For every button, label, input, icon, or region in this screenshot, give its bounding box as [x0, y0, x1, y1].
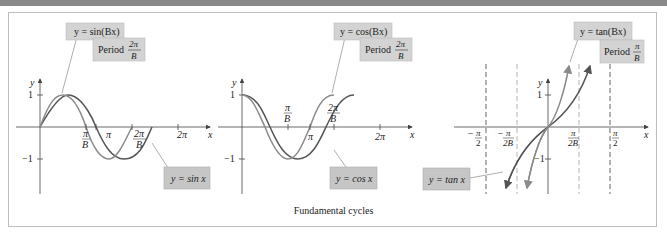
sine-panel: x y 1 −1 π B π 2π B 2π y = sin(Bx) Perio…: [16, 23, 213, 194]
y-axis-label: y: [537, 77, 543, 88]
cos-bx-label: y = cos(Bx): [340, 26, 387, 38]
tan-period-num: π: [635, 41, 640, 51]
cos-period-word: Period: [365, 44, 391, 55]
sin-period-num: 2π: [129, 39, 139, 49]
xtick-pi-over-B-num: π: [285, 102, 291, 113]
cos-x-label: y = cos x: [335, 173, 373, 184]
xtick-pi-over-2B-num: π: [571, 128, 576, 138]
cosine-panel: x y 1 −1 π B π 2π B 2π y = cos(Bx) Perio…: [218, 23, 415, 194]
xtick-pi-over-2-den: 2: [613, 138, 618, 148]
xtick-2pi: 2π: [177, 129, 188, 140]
sin-x-label: y = sin x: [170, 173, 206, 184]
xtick-pi-over-B-den: B: [284, 113, 290, 124]
cos-period-den: B: [398, 51, 404, 61]
ytick-neg1: −1: [224, 153, 235, 164]
sin-period-den: B: [131, 51, 137, 61]
tan-period-den: B: [634, 53, 640, 63]
ytick-neg1: −1: [22, 153, 33, 164]
xtick-2pi-over-B-den: B: [136, 139, 142, 150]
sin-bx-label: y = sin(Bx): [74, 26, 120, 38]
y-axis-label: y: [231, 77, 237, 88]
xtick-neg-pi-over-2-num: π: [476, 128, 481, 138]
fundamental-cycles-figure: x y 1 −1 π B π 2π B 2π y = sin(Bx) Perio…: [0, 0, 667, 235]
x-axis-label: x: [643, 129, 649, 140]
xtick-neg-pi-over-2-den: 2: [476, 138, 481, 148]
xtick-pi-over-B-den: B: [82, 139, 88, 150]
xtick-2pi: 2π: [375, 131, 386, 142]
sin-period-word: Period: [98, 44, 124, 55]
xtick-pi: π: [106, 129, 112, 140]
xtick-pi-over-2-num: π: [613, 128, 618, 138]
tan-x-label: y = tan x: [428, 174, 465, 185]
ytick-1: 1: [28, 89, 33, 100]
xtick-2pi-over-B-den: B: [330, 113, 336, 124]
xtick-neg-pi-over-2B-den: 2B: [503, 138, 514, 148]
cos-period-num: 2π: [396, 39, 406, 49]
tangent-panel: x y 1 −1 − π 2 − π 2B π 2B π 2 y = tan(B…: [423, 22, 649, 194]
figure-caption: Fundamental cycles: [0, 205, 667, 216]
ytick-1: 1: [537, 89, 542, 100]
xtick-pi-over-2B-den: 2B: [568, 138, 579, 148]
xtick-neg-pi-over-2B-num: π: [506, 128, 511, 138]
ytick-1: 1: [230, 89, 235, 100]
x-axis-label: x: [207, 129, 213, 140]
xtick-pi: π: [308, 131, 314, 142]
tan-period-word: Period: [604, 46, 630, 57]
y-axis-label: y: [29, 77, 35, 88]
xtick-2pi-over-B-num: 2π: [328, 102, 339, 113]
xtick-neg-pi-over-2-sign: −: [467, 128, 474, 139]
xtick-2pi-over-B-num: 2π: [134, 128, 145, 139]
x-axis-label: x: [409, 129, 415, 140]
tan-bx-label: y = tan(Bx): [580, 26, 626, 38]
